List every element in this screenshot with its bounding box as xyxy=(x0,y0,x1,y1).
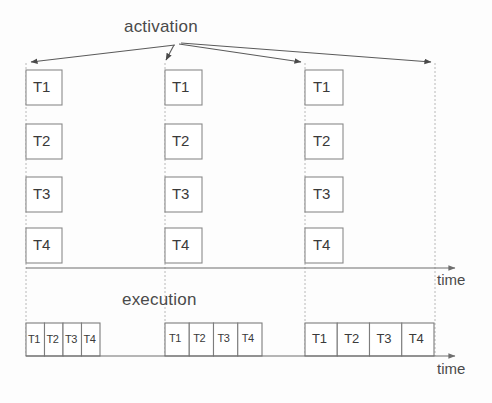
exec-label-g2-t2: T2 xyxy=(193,333,205,344)
activation-arrows xyxy=(31,43,431,62)
task-label-c3-t2: T2 xyxy=(313,133,330,148)
task-label-c1-t1: T1 xyxy=(33,79,50,94)
task-label-c3-t1: T1 xyxy=(313,79,330,94)
activation-arrow-2 xyxy=(166,45,174,60)
task-label-c2-t1: T1 xyxy=(172,79,189,94)
task-label-c1-t3: T3 xyxy=(33,186,50,201)
activation-arrow-1 xyxy=(31,45,175,62)
diagram-canvas: activation execution time time T1 T2 T3 … xyxy=(0,0,492,403)
task-label-c2-t4: T4 xyxy=(172,237,189,252)
task-column-2 xyxy=(165,70,202,263)
execution-caption: execution xyxy=(122,291,197,308)
task-label-c2-t2: T2 xyxy=(172,133,189,148)
task-column-3 xyxy=(305,70,343,263)
exec-label-g3-t3: T3 xyxy=(377,332,392,345)
activation-caption: activation xyxy=(124,18,198,35)
exec-label-g3-t1: T1 xyxy=(312,332,327,345)
task-label-c3-t3: T3 xyxy=(313,186,330,201)
task-label-c1-t4: T4 xyxy=(33,237,50,252)
exec-label-g1-t3: T3 xyxy=(65,334,77,345)
task-column-1 xyxy=(26,70,62,263)
task-label-c3-t4: T4 xyxy=(313,237,330,252)
exec-label-g1-t2: T2 xyxy=(47,334,59,345)
exec-label-g3-t4: T4 xyxy=(409,332,424,345)
activation-arrow-3 xyxy=(179,44,301,62)
exec-label-g2-t1: T1 xyxy=(169,333,181,344)
exec-label-g1-t1: T1 xyxy=(28,334,40,345)
task-label-c1-t2: T2 xyxy=(33,133,50,148)
exec-label-g3-t2: T2 xyxy=(344,332,359,345)
upper-time-axis-label: time xyxy=(437,272,465,287)
activation-guide-lines xyxy=(26,63,435,356)
task-label-c2-t3: T3 xyxy=(172,186,189,201)
exec-label-g2-t3: T3 xyxy=(218,333,230,344)
lower-time-axis-label: time xyxy=(437,361,465,376)
exec-label-g1-t4: T4 xyxy=(84,334,96,345)
exec-label-g2-t4: T4 xyxy=(242,333,254,344)
activation-arrow-4 xyxy=(181,43,431,62)
